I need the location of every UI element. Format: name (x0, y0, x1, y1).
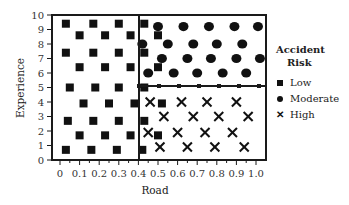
moderate-risk-marker (206, 54, 216, 63)
x-tick-label: 0.7 (189, 168, 205, 179)
x-tick-label: 0.6 (170, 168, 186, 179)
high-risk-marker (244, 112, 253, 121)
high-risk-marker (240, 142, 249, 151)
low-risk-marker (140, 20, 148, 28)
moderate-risk-marker (163, 39, 173, 48)
y-tick-label: 8 (38, 39, 44, 50)
y-axis-title: Experience (14, 58, 26, 118)
x-axis-title: Road (141, 184, 168, 196)
low-risk-marker (62, 49, 70, 57)
x-axis-ticks: 00.10.20.30.40.50.60.70.80.91.0 (57, 160, 264, 179)
y-tick-label: 0 (38, 155, 44, 166)
legend-item-low: Low (275, 74, 339, 90)
legend-item-moderate: Moderate (275, 90, 339, 106)
high-risk-marker (155, 142, 164, 151)
x-tick-label: 0.1 (72, 168, 88, 179)
high-risk-marker (159, 112, 168, 121)
low-risk-marker (140, 117, 148, 125)
low-risk-marker (66, 84, 74, 92)
high-risk-marker (232, 98, 241, 107)
x-tick-label: 0.4 (130, 168, 146, 179)
low-risk-marker (115, 49, 123, 57)
x-tick-label: 0.8 (209, 168, 225, 179)
low-risk-marker (89, 20, 97, 28)
legend-label-high: High (290, 109, 315, 120)
low-risk-marker (127, 131, 135, 139)
low-risk-marker (115, 20, 123, 28)
low-risk-marker (140, 49, 148, 57)
moderate-risk-marker (241, 68, 251, 77)
x-tick-label: 0.2 (91, 168, 107, 179)
legend-label-low: Low (290, 77, 311, 88)
low-risk-marker (76, 63, 84, 71)
y-tick-label: 2 (38, 126, 44, 137)
low-risk-marker (154, 31, 162, 39)
moderate-risk-marker (192, 68, 202, 77)
low-risk-marker (154, 131, 162, 139)
low-risk-marker (62, 20, 70, 28)
x-marker-icon: ✕ (276, 109, 284, 120)
low-risk-marker (91, 84, 99, 92)
high-risk-marker (203, 98, 212, 107)
moderate-risk-marker (253, 22, 263, 31)
low-risk-marker (130, 99, 138, 107)
low-risk-marker (76, 31, 84, 39)
high-risk-marker (146, 98, 155, 107)
low-risk-marker (101, 31, 109, 39)
low-risk-marker (113, 146, 121, 154)
low-risk-marker (105, 99, 113, 107)
low-risk-marker (64, 117, 72, 125)
legend-title: Accident Risk (276, 43, 339, 69)
low-risk-marker (127, 31, 135, 39)
y-tick-label: 7 (38, 53, 44, 64)
low-risk-marker (158, 99, 166, 107)
high-risk-marker (173, 128, 182, 137)
y-tick-label: 5 (38, 82, 44, 93)
moderate-risk-marker (188, 39, 198, 48)
y-tick-label: 9 (38, 24, 44, 35)
low-risk-marker (62, 146, 70, 154)
low-risk-marker (87, 146, 95, 154)
moderate-risk-marker (255, 54, 265, 63)
low-risk-marker (127, 63, 135, 71)
moderate-risk-marker (229, 22, 239, 31)
moderate-risk-marker (153, 22, 163, 31)
y-tick-label: 4 (38, 97, 44, 108)
moderate-risk-marker (182, 54, 192, 63)
y-tick-label: 3 (38, 111, 44, 122)
high-risk-marker (183, 142, 192, 151)
circle-marker-icon (277, 96, 283, 102)
high-risk-marker (177, 98, 186, 107)
low-risk-marker (115, 117, 123, 125)
low-risk-marker (140, 84, 148, 92)
low-risk-marker (101, 131, 109, 139)
high-risk-marker (210, 142, 219, 151)
x-tick-label: 0.9 (228, 168, 244, 179)
low-risk-marker (115, 84, 123, 92)
high-risk-marker (228, 128, 237, 137)
low-risk-marker (89, 117, 97, 125)
moderate-risk-marker (143, 68, 153, 77)
y-axis-ticks: 012345678910 (31, 10, 52, 166)
high-risk-marker (189, 112, 198, 121)
legend-label-moderate: Moderate (290, 93, 339, 104)
low-risk-marker (154, 63, 162, 71)
high-risk-marker (144, 128, 153, 137)
moderate-risk-marker (212, 39, 222, 48)
y-tick-label: 1 (38, 140, 44, 151)
moderate-risk-marker (204, 22, 214, 31)
high-risk-marker (201, 128, 210, 137)
low-risk-marker (80, 99, 88, 107)
moderate-risk-marker (178, 22, 188, 31)
low-risk-marker (76, 131, 84, 139)
low-risk-marker (101, 63, 109, 71)
moderate-risk-marker (157, 54, 167, 63)
legend-title-line1: Accident (276, 44, 325, 55)
x-tick-label: 0.5 (150, 168, 166, 179)
high-risk-marker (214, 112, 223, 121)
moderate-risk-marker (218, 68, 228, 77)
legend-item-high: ✕ High (275, 106, 339, 122)
x-tick-label: 0.3 (111, 168, 127, 179)
y-tick-label: 6 (38, 68, 44, 79)
x-tick-label: 1.0 (248, 168, 264, 179)
